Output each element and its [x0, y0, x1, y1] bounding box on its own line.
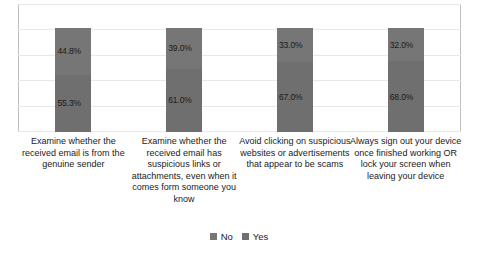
- bar-value-label: 44.8%: [57, 46, 81, 56]
- stacked-bar-chart: 44.8%55.3%39.0%61.0%33.0%67.0%32.0%68.0%…: [0, 0, 478, 258]
- bar-group[interactable]: 32.0%68.0%: [388, 28, 424, 132]
- bar-value-label: 68.0%: [390, 92, 414, 102]
- bar-group[interactable]: 39.0%61.0%: [166, 28, 202, 132]
- bar-value-label: 55.3%: [57, 98, 81, 108]
- bar-segment-no[interactable]: 33.0%: [277, 28, 313, 62]
- bar-segment-yes[interactable]: 68.0%: [388, 61, 424, 132]
- bar-stack: 32.0%68.0%: [388, 28, 424, 132]
- bar-value-label: 61.0%: [168, 95, 192, 105]
- category-label: Examine whether the received email has s…: [128, 136, 240, 206]
- bar-stack: 44.8%55.3%: [55, 28, 91, 132]
- bar-segment-yes[interactable]: 55.3%: [55, 75, 91, 132]
- bar-segment-no[interactable]: 39.0%: [166, 28, 202, 69]
- category-label: Always sign out your device once finishe…: [350, 136, 462, 182]
- bar-segment-no[interactable]: 32.0%: [388, 28, 424, 61]
- legend-swatch-icon: [210, 233, 217, 240]
- legend-swatch-icon: [242, 233, 249, 240]
- bar-value-label: 32.0%: [390, 40, 414, 50]
- bar-stack: 33.0%67.0%: [277, 28, 313, 132]
- bar-segment-no[interactable]: 44.8%: [55, 28, 91, 75]
- category-labels: Examine whether the received email is fr…: [18, 136, 461, 222]
- legend-item-yes[interactable]: Yes: [242, 231, 269, 242]
- legend-item-no[interactable]: No: [210, 231, 233, 242]
- category-label: Avoid clicking on suspicious websites or…: [239, 136, 351, 171]
- bar-group[interactable]: 33.0%67.0%: [277, 28, 313, 132]
- bars-layer: 44.8%55.3%39.0%61.0%33.0%67.0%32.0%68.0%: [18, 28, 461, 132]
- category-label: Examine whether the received email is fr…: [17, 136, 129, 171]
- chart-legend: NoYes: [0, 231, 478, 242]
- legend-label: Yes: [253, 231, 269, 242]
- bar-segment-yes[interactable]: 61.0%: [166, 69, 202, 132]
- bar-value-label: 33.0%: [279, 40, 303, 50]
- gridline: [18, 4, 461, 5]
- legend-label: No: [221, 231, 233, 242]
- bar-value-label: 67.0%: [279, 92, 303, 102]
- bar-value-label: 39.0%: [168, 43, 192, 53]
- bar-group[interactable]: 44.8%55.3%: [55, 28, 91, 132]
- bar-segment-yes[interactable]: 67.0%: [277, 62, 313, 132]
- bar-stack: 39.0%61.0%: [166, 28, 202, 132]
